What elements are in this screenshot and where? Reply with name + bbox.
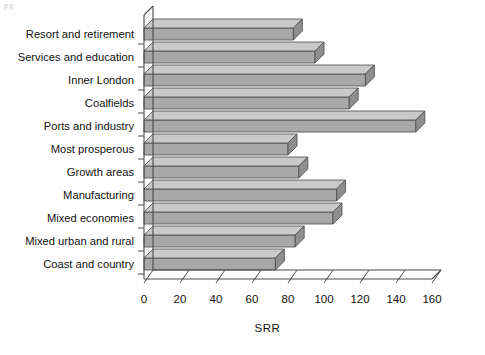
x-tick-label: 100 [314, 292, 333, 306]
bar [144, 111, 425, 132]
bar [144, 157, 308, 178]
bar [144, 134, 297, 155]
x-tick-label: 60 [246, 292, 259, 306]
x-tick-label: 0 [141, 292, 147, 306]
x-axis-title-text: SRR [205, 322, 281, 334]
bars-group [144, 19, 425, 270]
bar [144, 88, 358, 109]
bar [144, 19, 302, 40]
x-axis-title: SRR [0, 322, 485, 334]
value-axis-labels: 020406080100120140160 [0, 292, 485, 308]
bar [144, 226, 304, 247]
x-tick-label: 80 [282, 292, 295, 306]
x-tick-label: 160 [422, 292, 441, 306]
srr-bar-chart: pg Resort and retirementServices and edu… [0, 0, 485, 355]
bar [144, 42, 324, 63]
bar [144, 65, 374, 86]
x-tick-label: 40 [210, 292, 223, 306]
bar [144, 249, 284, 270]
x-tick-label: 20 [174, 292, 187, 306]
bar [144, 203, 342, 224]
x-tick-label: 140 [386, 292, 405, 306]
bar [144, 180, 346, 201]
x-tick-label: 120 [350, 292, 369, 306]
